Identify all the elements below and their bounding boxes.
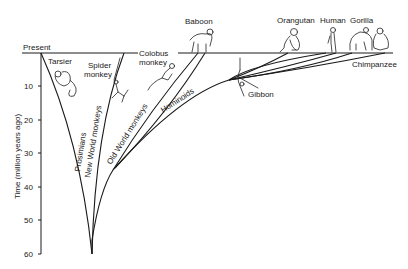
label-spider-monkey-2: monkey [84, 70, 112, 79]
tick-40: 40 [24, 183, 33, 192]
y-axis-label: Time (million years ago) [13, 114, 22, 199]
label-hominoids: Hominoids [159, 87, 196, 115]
label-colobus-2: monkey [139, 58, 167, 67]
chimpanzee-icon [373, 28, 388, 50]
label-old-world-monkeys: Old World monkeys [105, 102, 150, 166]
label-chimpanzee: Chimpanzee [352, 60, 397, 69]
y-axis: 10 20 30 40 50 60 Time (million years ag… [13, 53, 41, 259]
primate-evolution-diagram: Present 10 20 30 40 50 60 Time (million … [0, 0, 408, 269]
label-spider-monkey-1: Spider [88, 61, 111, 70]
tick-10: 10 [24, 82, 33, 91]
label-tarsier: Tarsier [48, 57, 72, 66]
label-orangutan: Orangutan [277, 16, 315, 25]
present-label: Present [23, 43, 51, 52]
label-baboon: Baboon [185, 17, 213, 26]
tick-30: 30 [24, 149, 33, 158]
orangutan-icon [280, 29, 300, 53]
tick-20: 20 [24, 116, 33, 125]
label-colobus-1: Colobus [139, 49, 168, 58]
human-icon [328, 28, 336, 53]
label-gibbon: Gibbon [248, 90, 274, 99]
gorilla-icon [350, 28, 372, 51]
colobus-monkey-icon [148, 64, 175, 91]
label-human: Human [320, 16, 346, 25]
tick-50: 50 [24, 216, 33, 225]
baboon-icon [190, 29, 213, 52]
tick-60: 60 [24, 250, 33, 259]
tarsier-icon [55, 71, 76, 96]
label-gorilla: Gorilla [350, 16, 374, 25]
